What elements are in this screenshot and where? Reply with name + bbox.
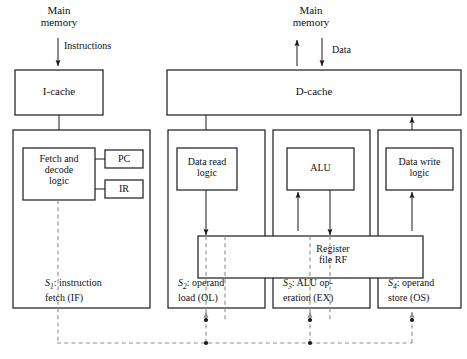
- data-read-logic-box: [177, 148, 237, 190]
- data-memory-arrows: [297, 38, 322, 66]
- icache-box: [15, 70, 103, 115]
- alu-box: [287, 148, 354, 190]
- stage3-label: S3: ALU op-eration (EX): [283, 277, 375, 304]
- figure-canvas: Main memory Instructions Main memory Dat…: [0, 0, 467, 359]
- stage1-label: S1: instructionfetch (IF): [45, 277, 145, 304]
- data-write-logic-box: [386, 148, 453, 190]
- register-file-box: [198, 236, 423, 278]
- pc-box: [105, 150, 143, 168]
- ir-box: [105, 180, 143, 198]
- stage4-label: S4: operandstore (OS): [388, 277, 467, 304]
- dcache-box: [167, 70, 461, 115]
- fetch-decode-box: [23, 148, 95, 200]
- diagram-vector-layer: [0, 0, 467, 359]
- stage2-label: S2: operandload (OL): [178, 277, 270, 304]
- bus-junction-dots: [204, 318, 414, 345]
